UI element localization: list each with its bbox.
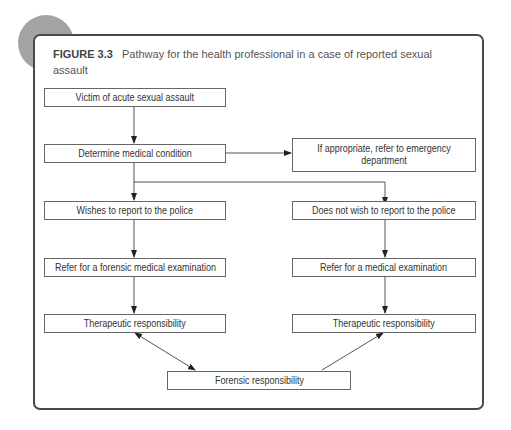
node-medical-exam: Refer for a medical examination — [292, 258, 476, 277]
node-determine-medical-condition: Determine medical condition — [44, 144, 226, 163]
node-wishes-to-report: Wishes to report to the police — [44, 201, 226, 220]
node-therapeutic-left: Therapeutic responsibility — [44, 314, 226, 333]
node-forensic-responsibility: Forensic responsibility — [167, 371, 351, 390]
node-forensic-medical-exam: Refer for a forensic medical examination — [44, 258, 226, 277]
node-refer-emergency: If appropriate, refer to emergency depar… — [292, 138, 476, 172]
node-victim: Victim of acute sexual assault — [44, 88, 226, 107]
node-therapeutic-right: Therapeutic responsibility — [292, 314, 476, 333]
node-does-not-wish-to-report: Does not wish to report to the police — [292, 201, 476, 220]
